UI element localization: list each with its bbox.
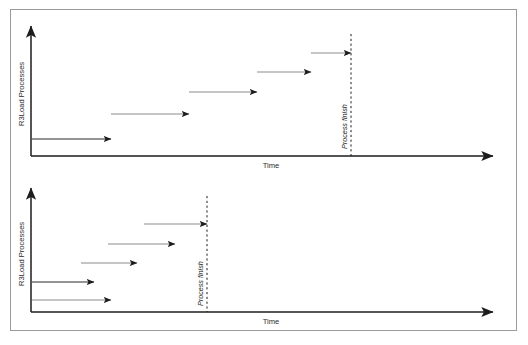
arrow-series-top bbox=[32, 53, 351, 139]
y-axis-label-bottom: R3Load Processes bbox=[17, 222, 26, 286]
x-axis-group-top: Time bbox=[31, 156, 493, 170]
chart-bottom-svg: R3Load Processes Time Process finish bbox=[11, 176, 518, 332]
y-axis-group-top: R3Load Processes bbox=[17, 26, 31, 156]
process-finish-marker-bottom: Process finish bbox=[196, 196, 207, 312]
y-axis-group-bottom: R3Load Processes bbox=[17, 188, 31, 312]
x-axis-group-bottom: Time bbox=[31, 312, 493, 326]
x-axis-label-bottom: Time bbox=[263, 317, 280, 326]
chart-top-svg: R3Load Processes Time Process finish bbox=[11, 10, 518, 176]
chart-top: R3Load Processes Time Process finish bbox=[11, 10, 518, 176]
process-finish-marker-top: Process finish bbox=[340, 34, 351, 156]
figure-canvas: R3Load Processes Time Process finish bbox=[0, 0, 528, 345]
chart-bottom: R3Load Processes Time Process finish bbox=[11, 176, 518, 332]
y-axis-label-top: R3Load Processes bbox=[17, 62, 26, 126]
process-finish-label-top: Process finish bbox=[340, 104, 349, 149]
process-finish-label-bottom: Process finish bbox=[196, 261, 205, 306]
figure-border: R3Load Processes Time Process finish bbox=[10, 9, 517, 331]
x-axis-label-top: Time bbox=[263, 161, 280, 170]
arrow-series-bottom bbox=[32, 224, 207, 300]
